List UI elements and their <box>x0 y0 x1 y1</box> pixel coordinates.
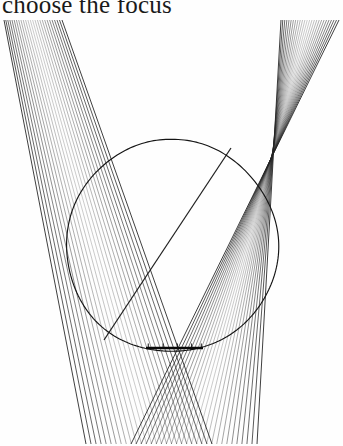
ray-line <box>52 20 192 444</box>
ray-line <box>197 20 308 444</box>
ray-line <box>37 20 161 444</box>
figure-caption-text: choose the focus <box>2 0 172 19</box>
left-ray-fan <box>4 20 212 444</box>
ray-line <box>207 20 303 444</box>
ray-line <box>222 20 296 444</box>
figure-caption: choose the focus <box>0 0 343 19</box>
figure-root: choose the focus <box>0 0 343 446</box>
ray-line <box>131 20 339 444</box>
right-ray-fan <box>131 20 339 444</box>
ray-line <box>146 20 331 444</box>
ray-line <box>23 20 131 444</box>
ray-line <box>237 20 289 444</box>
ray-line <box>10 20 101 444</box>
ray-line <box>6 20 91 444</box>
ray-line <box>217 20 298 444</box>
ray-line <box>202 20 305 444</box>
ray-line <box>161 20 324 444</box>
ray-diagram-plate <box>0 18 343 446</box>
ray-line <box>151 20 329 444</box>
caustic-envelope-diagram <box>0 18 343 446</box>
ray-line <box>8 20 96 444</box>
ray-line <box>14 20 111 444</box>
ray-line <box>35 20 157 444</box>
ray-line <box>136 20 336 444</box>
ray-line <box>212 20 301 444</box>
ray-line <box>16 20 116 444</box>
ray-line <box>171 20 319 444</box>
ray-line <box>141 20 334 444</box>
ray-line <box>156 20 326 444</box>
ray-line <box>232 20 291 444</box>
ray-line <box>247 20 285 444</box>
ray-line <box>42 20 171 444</box>
ray-line <box>166 20 321 444</box>
ray-line <box>26 20 137 444</box>
ray-line <box>57 20 202 444</box>
ray-line <box>186 20 312 444</box>
ray-line <box>181 20 314 444</box>
ray-line <box>176 20 316 444</box>
ray-line <box>191 20 309 444</box>
ray-line <box>242 20 287 444</box>
ray-line <box>60 20 207 444</box>
